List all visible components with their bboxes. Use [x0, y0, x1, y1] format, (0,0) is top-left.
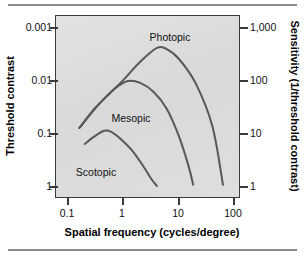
xtick-label-2: 10 [172, 207, 184, 219]
ytick-label-0: 0.001 [26, 21, 52, 33]
annotation-scotopic: Scotopic [76, 166, 116, 178]
ytick-label-1: 0.01 [32, 74, 52, 86]
y2tick-label-1: 100 [250, 74, 268, 86]
xtick-mark-100 [233, 197, 235, 205]
figure-container: 0.001 0.01 0.1 1 1,000 100 10 1 0.1 1 10… [0, 0, 305, 257]
y2tick-label-3: 1 [250, 180, 256, 192]
curve-photopic [79, 47, 223, 185]
bottom-divider-rule [8, 249, 297, 251]
x-axis-title: Spatial frequency (cycles/degree) [65, 226, 240, 238]
xtick-mark-1 [122, 197, 124, 205]
xtick-label-3: 100 [224, 207, 242, 219]
top-divider-rule [8, 4, 297, 6]
y2tick-label-0: 1,000 [250, 21, 276, 33]
annotation-mesopic: Mesopic [111, 112, 150, 124]
y2tick-mark-100 [240, 80, 248, 82]
annotation-photopic: Photopic [150, 31, 191, 43]
y2tick-mark-1 [240, 186, 248, 188]
y2tick-mark-1000 [240, 27, 248, 29]
y2tick-label-2: 10 [250, 127, 262, 139]
xtick-label-0: 0.1 [60, 207, 75, 219]
y2-axis-title: Sensitivity (1/threshold contrast) [289, 20, 301, 192]
y-axis-title: Threshold contrast [4, 31, 16, 181]
xtick-mark-10 [178, 197, 180, 205]
ytick-label-2: 0.1 [37, 127, 52, 139]
ytick-label-3: 1 [46, 180, 52, 192]
xtick-mark-0.1 [67, 197, 69, 205]
xtick-label-1: 1 [119, 207, 125, 219]
y2tick-mark-10 [240, 133, 248, 135]
